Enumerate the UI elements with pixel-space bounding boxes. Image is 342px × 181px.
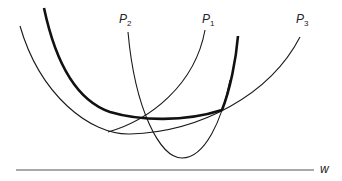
label-p2: P2 [119,12,131,28]
label-p3: P3 [296,12,308,28]
curves-svg [0,0,342,181]
diagram-canvas: P2 P1 P3 w [0,0,342,181]
curve-p2 [128,32,230,158]
label-p1: P1 [202,12,214,28]
label-w: w [320,162,329,176]
